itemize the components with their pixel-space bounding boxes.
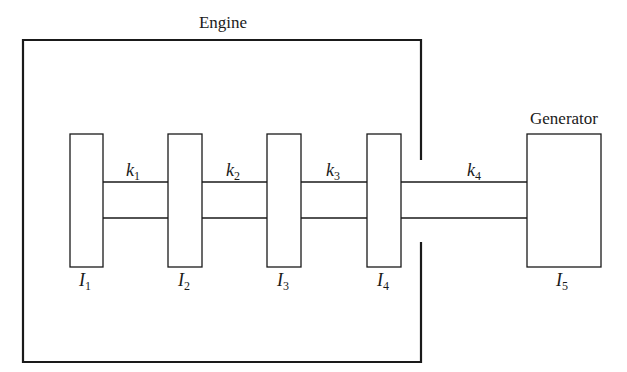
engine-label: Engine: [199, 13, 247, 32]
shaft-4: [401, 182, 527, 218]
disk-4: [367, 134, 401, 267]
shaft-1: [103, 182, 168, 218]
stiffness-label-k2: k2: [226, 160, 240, 183]
inertia-label-i3: I3: [276, 270, 289, 293]
generator-label: Generator: [530, 109, 598, 128]
generator-block: [527, 134, 601, 267]
inertia-label-i5: I5: [555, 270, 568, 293]
torsional-system-diagram: Engine Generator k1 k2 k3 k4 I1 I2 I3 I4…: [0, 0, 627, 372]
disk-3: [267, 134, 301, 267]
inertia-label-i1: I1: [78, 270, 91, 293]
stiffness-label-k1: k1: [126, 160, 140, 183]
inertia-label-i2: I2: [177, 270, 190, 293]
shaft-2: [202, 182, 267, 218]
diagram-canvas: Engine Generator k1 k2 k3 k4 I1 I2 I3 I4…: [0, 0, 627, 372]
stiffness-label-k4: k4: [467, 160, 481, 183]
shaft-3: [301, 182, 367, 218]
inertia-label-i4: I4: [376, 270, 389, 293]
disk-1: [70, 134, 103, 267]
stiffness-label-k3: k3: [326, 160, 340, 183]
disk-2: [168, 134, 202, 267]
